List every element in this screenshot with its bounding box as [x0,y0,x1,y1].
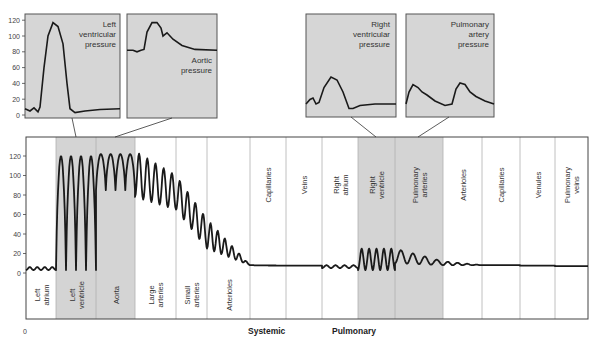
inset-right-ventricular-pressure: Rightventricularpressure [306,14,396,117]
region-label: ventricle [377,171,386,199]
svg-text:40: 40 [12,80,20,87]
main-y-axis: 020406080100120 [9,153,26,277]
svg-text:0: 0 [16,112,20,119]
svg-text:80: 80 [12,48,20,55]
region-label: atrium [42,285,51,306]
svg-text:120: 120 [8,17,20,24]
region-label: Left [33,288,42,301]
region-label: Venules [534,171,543,198]
pulmonary-label: Pulmonary [332,326,376,336]
region-label: Large [147,285,156,304]
pressure-diagram: LeftatriumLeftventricleAortaLargearterie… [0,0,598,343]
inset-aortic-pressure: Aorticpressure [127,14,217,118]
region-label: Capillaries [264,167,273,202]
svg-text:60: 60 [13,211,21,218]
svg-text:120: 120 [9,153,21,160]
svg-text:0: 0 [17,270,21,277]
region-label: Pulmonary [411,167,420,203]
svg-text:20: 20 [13,250,21,257]
inset-connectors [72,117,449,137]
systemic-label: Systemic [248,326,286,336]
region-label: arteries [192,282,201,307]
region-label: ventricle [77,281,86,309]
inset-pulmonary-artery-pressure: Pulmonaryarterypressure [406,14,494,117]
inset-y-axis: 020406080100120 [8,17,25,119]
region-label: veins [572,176,581,194]
x-origin-label: 0 [23,328,27,335]
svg-text:80: 80 [13,192,21,199]
region-label: Arterioles [459,169,468,201]
region-label: Left [68,288,77,301]
inset-left-ventricular-pressure: 020406080100120 Leftventricularpressure [8,14,120,119]
region-shade [395,137,443,319]
svg-text:40: 40 [13,231,21,238]
region-label: Right [368,175,377,193]
region-label: Small [183,285,192,304]
region-label: Arterioles [225,279,234,311]
region-label: Capillaries [497,167,506,202]
region-shade [358,137,395,319]
region-label: arteries [156,282,165,307]
region-label: Pulmonary [563,167,572,203]
region-label: arteries [420,172,429,197]
region-label: Right [332,175,341,193]
region-label: Veins [300,176,309,195]
region-label: atrium [341,175,350,196]
svg-text:100: 100 [8,33,20,40]
svg-text:100: 100 [9,172,21,179]
region-label: Aorta [112,285,121,304]
svg-text:60: 60 [12,64,20,71]
svg-text:20: 20 [12,96,20,103]
